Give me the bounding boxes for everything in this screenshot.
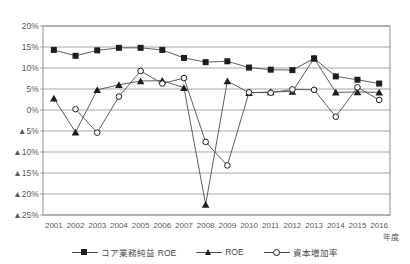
data-point-marker xyxy=(246,65,252,71)
y-axis-tick-label: 15% xyxy=(0,43,39,52)
data-point-marker xyxy=(376,97,382,103)
data-point-marker xyxy=(73,53,79,59)
data-point-marker xyxy=(138,45,144,51)
data-point-marker xyxy=(181,75,187,81)
legend-item[interactable]: 資本増加率 xyxy=(264,246,338,258)
data-point-marker xyxy=(51,47,57,53)
legend-filled-triangle-icon xyxy=(196,248,222,256)
data-point-marker xyxy=(289,67,295,73)
data-point-marker xyxy=(181,55,187,61)
data-point-marker xyxy=(355,85,361,91)
data-point-marker xyxy=(73,106,79,112)
y-axis-tick-label: 20% xyxy=(0,22,39,31)
y-axis-tick-label: 0% xyxy=(0,106,39,115)
legend-item[interactable]: コア業務純益 ROE xyxy=(72,246,176,258)
data-point-marker xyxy=(159,47,165,53)
data-point-marker xyxy=(246,90,252,96)
plot-border xyxy=(43,26,390,215)
data-point-marker xyxy=(203,139,209,145)
data-point-marker xyxy=(290,87,296,93)
data-point-marker xyxy=(94,130,100,136)
chart-legend: コア業務純益 ROEROE資本増加率 xyxy=(0,246,410,258)
y-axis-tick-label: ▲5% xyxy=(0,127,39,136)
y-axis-tick-label: 5% xyxy=(0,85,39,94)
data-point-marker xyxy=(116,45,122,51)
x-axis-unit-label: 年度 xyxy=(383,234,399,242)
data-point-marker xyxy=(268,90,274,96)
data-point-marker xyxy=(224,58,230,64)
x-axis-tick-label: 2016 xyxy=(365,222,393,230)
data-point-marker xyxy=(333,73,339,79)
data-point-marker xyxy=(203,59,209,65)
y-axis-tick-label: ▲10% xyxy=(0,148,39,157)
legend-label: 資本増加率 xyxy=(293,246,338,258)
legend-filled-square-icon xyxy=(72,248,98,256)
y-axis-tick-label: ▲15% xyxy=(0,169,39,178)
data-point-marker xyxy=(138,68,144,74)
data-point-marker xyxy=(94,47,100,53)
legend-item[interactable]: ROE xyxy=(196,247,243,257)
y-axis-tick-label: ▲25% xyxy=(0,211,39,220)
data-point-marker xyxy=(116,94,122,100)
legend-label: コア業務純益 ROE xyxy=(101,246,176,258)
legend-open-circle-icon xyxy=(264,248,290,256)
chart-container: 20%15%10%5%0%▲5%▲10%▲15%▲20%▲25% 2001200… xyxy=(0,0,410,264)
data-point-marker xyxy=(268,67,274,73)
y-axis-tick-label: 10% xyxy=(0,64,39,73)
data-point-marker xyxy=(354,77,360,83)
data-point-marker xyxy=(333,114,339,120)
y-axis-tick-label: ▲20% xyxy=(0,190,39,199)
data-point-marker xyxy=(159,81,165,87)
legend-label: ROE xyxy=(225,247,243,257)
data-point-marker xyxy=(376,81,382,87)
data-point-marker xyxy=(225,163,231,169)
data-point-marker xyxy=(311,87,317,93)
